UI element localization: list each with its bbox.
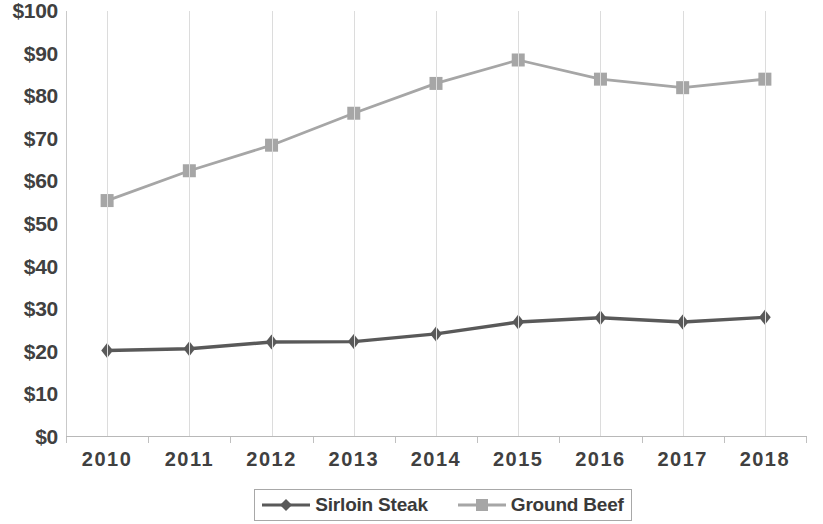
legend-item-sirloin-steak[interactable]: Sirloin Steak: [262, 494, 428, 516]
x-axis-tick: [642, 437, 643, 443]
gridline-vertical: [683, 11, 684, 437]
gridline-vertical: [518, 11, 519, 437]
gridline-vertical: [436, 11, 437, 437]
x-axis-tick: [66, 437, 67, 443]
gridline-vertical: [107, 11, 108, 437]
x-axis-line: [66, 436, 807, 437]
line-chart: $0$10$20$30$40$50$60$70$80$90$100 201020…: [0, 0, 823, 524]
legend-label-ground-beef: Ground Beef: [511, 494, 624, 516]
x-axis-tick-label: 2016: [575, 448, 626, 471]
y-axis-tick-label: $20: [24, 340, 58, 364]
gridline-vertical: [765, 11, 766, 437]
x-axis-tick: [477, 437, 478, 443]
gridline-vertical: [189, 11, 190, 437]
y-axis-tick-label: $100: [12, 0, 58, 23]
x-axis-tick-label: 2011: [165, 448, 214, 471]
x-axis-tick: [313, 437, 314, 443]
x-axis-tick-label: 2012: [246, 448, 297, 471]
y-axis-tick-label: $0: [35, 425, 58, 449]
x-axis-tick-label: 2010: [82, 448, 133, 471]
y-axis-tick-label: $60: [24, 169, 58, 193]
gridline-vertical: [272, 11, 273, 437]
x-axis-tick: [148, 437, 149, 443]
x-axis-tick-label: 2014: [411, 448, 462, 471]
x-axis-tick-label: 2017: [657, 448, 708, 471]
x-axis-tick-label: 2015: [493, 448, 544, 471]
y-axis: $0$10$20$30$40$50$60$70$80$90$100: [0, 0, 62, 450]
plot-area: [66, 11, 806, 437]
y-axis-tick-label: $70: [24, 127, 58, 151]
x-axis-tick-label: 2018: [740, 448, 791, 471]
y-axis-tick-label: $40: [24, 255, 58, 279]
legend-marker-square-icon: [458, 497, 506, 513]
legend-item-ground-beef[interactable]: Ground Beef: [458, 494, 624, 516]
x-axis-tick: [806, 437, 807, 443]
x-axis-tick: [230, 437, 231, 443]
x-axis-tick: [395, 437, 396, 443]
gridline-vertical: [354, 11, 355, 437]
legend-label-sirloin-steak: Sirloin Steak: [315, 494, 428, 516]
x-axis-tick: [559, 437, 560, 443]
y-axis-tick-label: $10: [24, 382, 58, 406]
y-axis-tick-label: $30: [24, 297, 58, 321]
gridline-vertical: [600, 11, 601, 437]
y-axis-tick-label: $50: [24, 212, 58, 236]
y-axis-tick-label: $80: [24, 84, 58, 108]
y-axis-tick-label: $90: [24, 42, 58, 66]
x-axis-tick-label: 2013: [329, 448, 380, 471]
legend-marker-diamond-icon: [262, 497, 310, 513]
chart-legend: Sirloin Steak Ground Beef: [254, 489, 632, 521]
x-axis-tick: [724, 437, 725, 443]
